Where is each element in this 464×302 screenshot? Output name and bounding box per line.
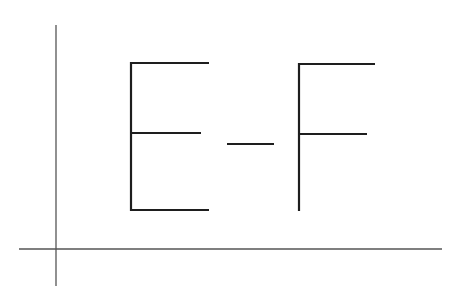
letter-f [298, 63, 375, 211]
axes [19, 25, 442, 286]
letter-e [130, 62, 209, 211]
diagram-canvas [0, 0, 464, 302]
